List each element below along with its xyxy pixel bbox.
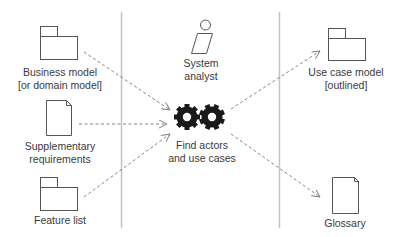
package-icon: [41, 178, 78, 211]
activity-label: Find actors and use cases: [168, 139, 236, 165]
supplementary-requirements-label: Supplementary requirements: [25, 140, 96, 166]
business-model-label: Business model [or domain model]: [18, 66, 102, 92]
use-case-model-label-line1: Use case model: [308, 66, 383, 79]
feature-list-label: Feature list: [34, 214, 86, 227]
activity-label-line2: and use cases: [168, 152, 236, 165]
worker-icon: [192, 20, 213, 54]
use-case-model-label-line2: [outlined]: [308, 79, 383, 92]
system-analyst-label: System analyst: [183, 57, 218, 83]
activity-label-line1: Find actors: [168, 139, 236, 152]
glossary-label: Glossary: [324, 217, 365, 230]
flow-arrow-glossary: [231, 134, 320, 197]
document-icon: [333, 178, 359, 214]
package-icon: [41, 27, 78, 60]
supplementary-requirements-label-line2: requirements: [25, 153, 96, 166]
package-icon: [329, 29, 366, 61]
feature-list-label-line1: Feature list: [34, 214, 86, 227]
document-icon: [47, 101, 72, 136]
glossary-label-line1: Glossary: [324, 217, 365, 230]
flow-arrow-use-case-model: [231, 51, 320, 109]
business-model-label-line2: [or domain model]: [18, 79, 102, 92]
system-analyst-label-line2: analyst: [183, 70, 218, 83]
supplementary-requirements-label-line1: Supplementary: [25, 140, 96, 153]
gears-icon: [174, 104, 225, 130]
diagram-graphics: [0, 0, 399, 237]
system-analyst-label-line1: System: [183, 57, 218, 70]
business-model-label-line1: Business model: [18, 66, 102, 79]
use-case-model-label: Use case model [outlined]: [308, 66, 383, 92]
workflow-diagram: Business model [or domain model] Supplem…: [0, 0, 399, 237]
flow-arrow-feature-list: [84, 134, 170, 197]
